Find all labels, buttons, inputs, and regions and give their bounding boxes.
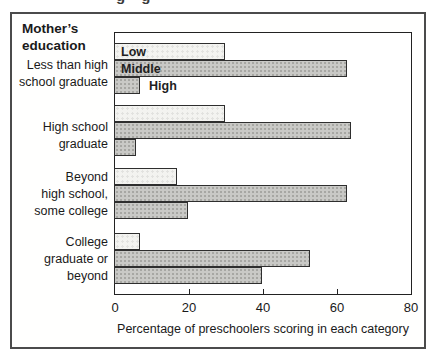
bar-middle-2 (114, 122, 351, 139)
category-label-2: High school graduate (16, 119, 108, 153)
category-label-3: Beyond high school, some college (16, 169, 108, 220)
x-tick-60 (337, 289, 338, 294)
cropped-caption-text: g g (116, 0, 151, 4)
group-axis-title: Mother’s education (22, 20, 86, 54)
bar-high-1 (114, 77, 140, 94)
bar-low-2 (114, 105, 225, 122)
plot-area: LowMiddleHigh (114, 32, 412, 295)
bar-high-2 (114, 139, 136, 156)
legend-label-low: Low (121, 45, 146, 60)
bar-middle-1: Middle (114, 60, 347, 77)
x-tick-label-0: 0 (98, 300, 132, 315)
category-label-1: Less than high school graduate (16, 57, 108, 91)
bar-middle-4 (114, 250, 310, 267)
bar-middle-3 (114, 185, 347, 202)
x-tick-20 (189, 289, 190, 294)
x-tick-label-20: 20 (172, 300, 206, 315)
x-tick-label-60: 60 (320, 300, 354, 315)
x-tick-40 (263, 289, 264, 294)
bar-low-3 (114, 168, 177, 185)
figure-page: g g Mother’s education LowMiddleHigh Per… (0, 0, 434, 360)
category-label-4: College graduate or beyond (16, 234, 108, 285)
bar-high-3 (114, 202, 188, 219)
x-tick-label-40: 40 (246, 300, 280, 315)
x-tick-label-80: 80 (394, 300, 428, 315)
cropped-caption-fragment: g g (116, 0, 196, 7)
x-axis-title: Percentage of preschoolers scoring in ea… (108, 322, 418, 336)
figure-frame: Mother’s education LowMiddleHigh Percent… (10, 12, 426, 349)
bar-low-4 (114, 233, 140, 250)
legend-label-high: High (149, 79, 177, 94)
bar-high-4 (114, 267, 262, 284)
bar-low-1: Low (114, 43, 225, 60)
legend-label-middle: Middle (121, 62, 161, 77)
